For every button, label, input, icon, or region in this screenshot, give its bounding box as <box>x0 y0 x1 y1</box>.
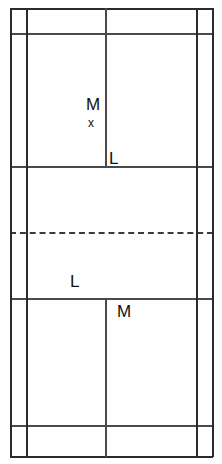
bottom-baseline <box>10 456 213 458</box>
center-service-line-top <box>105 8 107 167</box>
top-baseline <box>10 8 213 10</box>
label-bottom-long-line: L <box>70 273 79 290</box>
center-service-line-bottom <box>105 298 107 457</box>
label-shuttle-mark: x <box>88 117 94 129</box>
bottom-long-service-line <box>10 425 213 427</box>
net-line <box>10 232 213 234</box>
badminton-court-diagram: M x L L M <box>0 0 222 464</box>
top-long-service-line <box>10 33 213 35</box>
label-bottom-service-court: M <box>117 303 131 320</box>
right-inner-sideline <box>196 8 198 457</box>
left-outer-sideline <box>10 8 12 457</box>
right-outer-sideline <box>212 8 214 457</box>
label-top-service-court: M <box>86 96 100 113</box>
label-top-long-line: L <box>109 150 118 167</box>
left-inner-sideline <box>26 8 28 457</box>
bottom-short-service-line <box>10 298 213 300</box>
